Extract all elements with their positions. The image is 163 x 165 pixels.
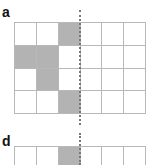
panel-d-label: d xyxy=(2,134,11,148)
grid-cell xyxy=(37,147,59,165)
grid-cell xyxy=(124,23,146,46)
grid-cell xyxy=(124,69,146,92)
grid-cell xyxy=(59,23,81,46)
grid-cell xyxy=(15,147,37,165)
grid-cell xyxy=(124,91,146,114)
grid-cell xyxy=(59,69,81,92)
grid-cell xyxy=(59,91,81,114)
grid-cell xyxy=(124,46,146,69)
grid-cell xyxy=(81,147,103,165)
grid-cell xyxy=(37,91,59,114)
symmetry-divider-line-d xyxy=(79,133,81,165)
grid-cell xyxy=(102,147,124,165)
panel-a-label: a xyxy=(2,5,10,19)
grid-cell xyxy=(124,147,146,165)
grid-cell xyxy=(102,69,124,92)
grid-cell xyxy=(37,69,59,92)
grid-cell xyxy=(15,23,37,46)
grid-cell xyxy=(15,91,37,114)
grid-cell xyxy=(102,46,124,69)
grid-cell xyxy=(102,23,124,46)
grid-cell xyxy=(15,46,37,69)
grid-cell xyxy=(37,23,59,46)
grid-cell xyxy=(59,46,81,69)
grid-cell xyxy=(81,91,103,114)
grid-cell xyxy=(15,69,37,92)
grid-cell xyxy=(37,46,59,69)
symmetry-divider-line xyxy=(79,10,81,125)
grid-cell xyxy=(81,23,103,46)
grid-cell xyxy=(81,46,103,69)
grid-cell xyxy=(81,69,103,92)
grid-cell xyxy=(102,91,124,114)
grid-cell xyxy=(59,147,81,165)
